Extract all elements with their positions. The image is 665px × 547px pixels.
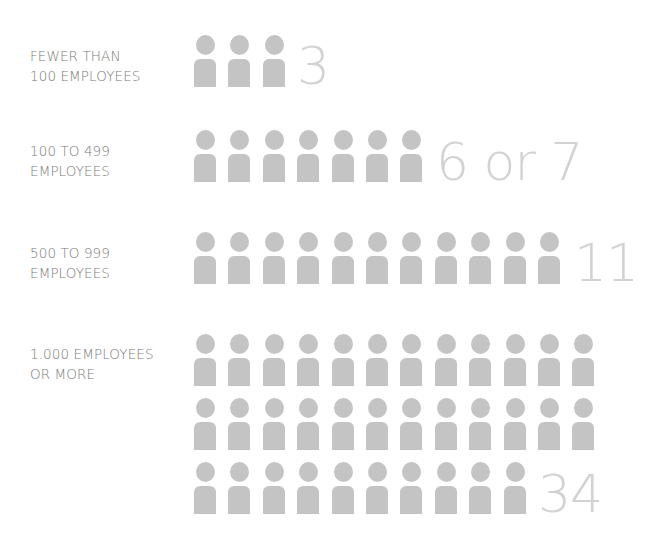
- person-icon: [435, 462, 457, 516]
- person-head: [230, 130, 249, 150]
- person-body: [400, 422, 422, 450]
- person-head: [265, 232, 284, 252]
- person-body: [435, 358, 457, 386]
- person-head: [230, 334, 249, 354]
- person-icon: [297, 130, 319, 184]
- count-value: 6 or 7: [436, 136, 582, 188]
- person-icon: [194, 398, 216, 452]
- category-label: FEWER THAN 100 EMPLOYEES: [30, 46, 140, 86]
- person-body: [435, 486, 457, 514]
- category-label: 100 TO 499 EMPLOYEES: [30, 141, 110, 181]
- person-head: [574, 334, 593, 354]
- person-body: [194, 422, 216, 450]
- person-icon: [194, 232, 216, 286]
- person-icon: [228, 334, 250, 388]
- person-icon: [297, 462, 319, 516]
- person-icon: [469, 462, 491, 516]
- person-icon: [366, 398, 388, 452]
- person-body: [194, 154, 216, 182]
- person-icon: [469, 334, 491, 388]
- person-body: [228, 358, 250, 386]
- person-icon: [400, 232, 422, 286]
- person-icon: [538, 398, 560, 452]
- person-body: [263, 422, 285, 450]
- person-body: [538, 256, 560, 284]
- person-head: [540, 232, 559, 252]
- person-icon: [263, 398, 285, 452]
- person-head: [402, 232, 421, 252]
- person-body: [263, 59, 285, 87]
- person-body: [366, 422, 388, 450]
- person-head: [334, 398, 353, 418]
- category-label: 500 TO 999 EMPLOYEES: [30, 243, 110, 283]
- person-head: [368, 462, 387, 482]
- person-icon: [435, 232, 457, 286]
- person-icon: [263, 130, 285, 184]
- person-body: [297, 256, 319, 284]
- person-body: [194, 256, 216, 284]
- person-head: [506, 398, 525, 418]
- person-icon: [297, 232, 319, 286]
- person-head: [196, 398, 215, 418]
- person-head: [334, 130, 353, 150]
- person-body: [435, 256, 457, 284]
- person-icon: [400, 334, 422, 388]
- person-body: [263, 154, 285, 182]
- person-head: [299, 130, 318, 150]
- person-head: [506, 334, 525, 354]
- person-icon: [263, 334, 285, 388]
- person-head: [196, 462, 215, 482]
- person-head: [574, 398, 593, 418]
- person-head: [437, 462, 456, 482]
- person-head: [299, 398, 318, 418]
- person-icon: [400, 462, 422, 516]
- person-head: [368, 232, 387, 252]
- person-icon: [194, 130, 216, 184]
- person-head: [299, 462, 318, 482]
- person-icon: [366, 130, 388, 184]
- person-icon: [297, 398, 319, 452]
- person-icon: [538, 232, 560, 286]
- person-head: [437, 334, 456, 354]
- person-icon: [572, 334, 594, 388]
- person-body: [366, 358, 388, 386]
- person-body: [228, 422, 250, 450]
- person-body: [228, 154, 250, 182]
- person-body: [194, 59, 216, 87]
- person-body: [332, 422, 354, 450]
- person-head: [437, 398, 456, 418]
- person-body: [469, 486, 491, 514]
- person-icon: [504, 398, 526, 452]
- person-icon: [228, 130, 250, 184]
- person-head: [334, 462, 353, 482]
- person-head: [506, 232, 525, 252]
- count-value: 34: [538, 468, 602, 520]
- icon-row: [194, 334, 607, 388]
- person-icon: [263, 35, 285, 89]
- person-body: [297, 358, 319, 386]
- category-label: 1.000 EMPLOYEES OR MORE: [30, 344, 154, 384]
- count-value: 3: [297, 40, 329, 92]
- person-body: [332, 256, 354, 284]
- person-head: [265, 398, 284, 418]
- person-icon: [504, 232, 526, 286]
- person-icon: [366, 462, 388, 516]
- person-icon: [366, 334, 388, 388]
- person-body: [538, 358, 560, 386]
- person-icon: [228, 232, 250, 286]
- person-head: [196, 232, 215, 252]
- person-head: [265, 130, 284, 150]
- person-body: [400, 154, 422, 182]
- person-body: [469, 358, 491, 386]
- person-body: [194, 358, 216, 386]
- label-line-1: 500 TO 999: [30, 243, 110, 263]
- person-icon: [332, 334, 354, 388]
- person-body: [332, 486, 354, 514]
- person-head: [402, 398, 421, 418]
- person-head: [437, 232, 456, 252]
- person-head: [230, 232, 249, 252]
- person-head: [230, 398, 249, 418]
- person-icon: [366, 232, 388, 286]
- person-head: [471, 334, 490, 354]
- person-head: [471, 398, 490, 418]
